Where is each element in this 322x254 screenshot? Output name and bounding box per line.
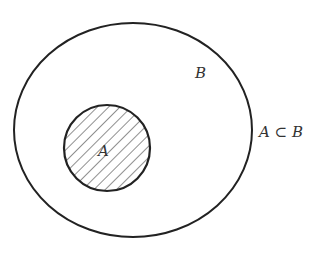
set-a-label: A (98, 142, 109, 160)
relation-label: A ⊂ B (259, 123, 303, 141)
set-b-label: B (195, 64, 206, 82)
